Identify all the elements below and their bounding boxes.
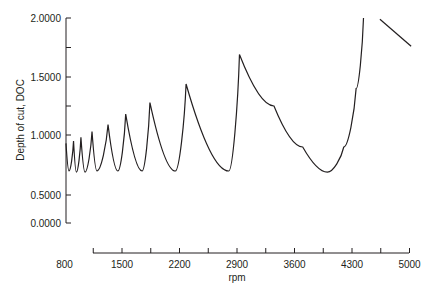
x-tick-label: 2200 xyxy=(168,259,191,270)
y-tick-label: 1.0000 xyxy=(30,130,61,141)
x-tick-label: 800 xyxy=(56,259,73,270)
x-tick-label: 3600 xyxy=(283,259,306,270)
x-tick-label: 4300 xyxy=(341,259,364,270)
y-axis-title: Depth of cut, DOC xyxy=(15,79,26,161)
stability-lobe-line xyxy=(380,19,411,46)
x-tick-label: 5000 xyxy=(398,259,421,270)
y-tick-label: 2.0000 xyxy=(30,13,61,24)
x-axis-title: rpm xyxy=(228,272,245,283)
data-series xyxy=(66,18,411,172)
y-tick-label: 0.0000 xyxy=(30,218,61,229)
y-tick-label: 0.5000 xyxy=(30,190,61,201)
stability-lobe-chart: 0.00000.50001.00001.50002.0000 Depth of … xyxy=(0,0,432,300)
y-axis: 0.00000.50001.00001.50002.0000 Depth of … xyxy=(15,13,71,229)
x-ticks: 800150022002900360043005000 xyxy=(56,248,421,270)
x-axis: 800150022002900360043005000 rpm xyxy=(56,248,421,283)
x-tick-label: 2900 xyxy=(226,259,249,270)
y-ticks: 0.00000.50001.00001.50002.0000 xyxy=(30,13,71,229)
stability-lobe-line xyxy=(66,18,364,172)
y-tick-label: 1.5000 xyxy=(30,72,61,83)
x-tick-label: 1500 xyxy=(111,259,134,270)
